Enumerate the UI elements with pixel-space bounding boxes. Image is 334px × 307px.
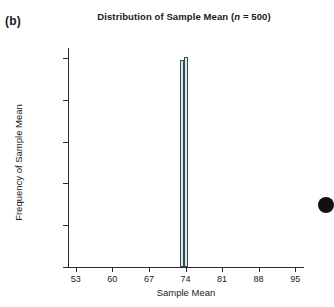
x-tick-81 <box>222 267 223 272</box>
x-tick-label-67: 67 <box>136 274 162 284</box>
x-tick-88 <box>259 267 260 272</box>
chart-title-suffix: = 500) <box>240 11 271 22</box>
x-tick-67 <box>149 267 150 272</box>
edge-dot-marker <box>318 197 334 213</box>
x-tick-label-74: 74 <box>173 274 199 284</box>
x-tick-label-95: 95 <box>282 274 308 284</box>
y-tick-label-wrap-1500: 1500 <box>0 142 62 143</box>
chart-title-prefix: Distribution of Sample Mean ( <box>97 11 234 22</box>
y-tick-label-wrap-0: 0 <box>0 267 62 268</box>
x-tick-label-53: 53 <box>63 274 89 284</box>
x-tick-74 <box>186 267 187 272</box>
y-tick-label-wrap-2500: 2500 <box>0 58 62 59</box>
x-tick-60 <box>112 267 113 272</box>
x-axis-title: Sample Mean <box>68 287 304 298</box>
chart-title: Distribution of Sample Mean (n = 500) <box>68 11 300 22</box>
panel-label: (b) <box>5 14 21 28</box>
y-tick-label-wrap-500: 500 <box>0 225 62 226</box>
histogram-bar <box>184 57 188 267</box>
x-tick-label-60: 60 <box>99 274 125 284</box>
y-tick-label-wrap-2000: 2000 <box>0 100 62 101</box>
x-tick-53 <box>76 267 77 272</box>
y-axis-title: Frequency of Sample Mean <box>13 83 24 243</box>
y-tick-0 <box>63 267 68 268</box>
x-tick-95 <box>295 267 296 272</box>
y-tick-label-wrap-1000: 1000 <box>0 183 62 184</box>
x-tick-label-88: 88 <box>246 274 272 284</box>
x-tick-label-81: 81 <box>209 274 235 284</box>
plot-area <box>68 48 303 267</box>
